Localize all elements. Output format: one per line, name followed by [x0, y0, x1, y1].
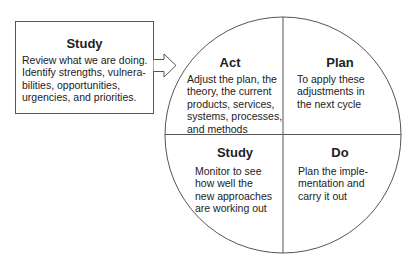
- input-box-text: Review what we are doing. Identify stren…: [22, 54, 147, 104]
- arrow-right-icon: [154, 54, 177, 77]
- quadrant-act-text: Adjust the plan, the theory, the current…: [187, 73, 282, 135]
- quadrant-act-title: Act: [180, 55, 280, 70]
- quadrant-study-title: Study: [185, 145, 285, 160]
- input-box-title: Study: [15, 36, 154, 51]
- quadrant-plan-title: Plan: [290, 55, 390, 70]
- quadrant-study-text: Monitor to see how well the new approach…: [195, 165, 272, 215]
- quadrant-do-text: Plan the imple- mentation and carry it o…: [298, 165, 368, 202]
- quadrant-do-title: Do: [290, 145, 390, 160]
- quadrant-plan-text: To apply these adjustments in the next c…: [297, 73, 365, 110]
